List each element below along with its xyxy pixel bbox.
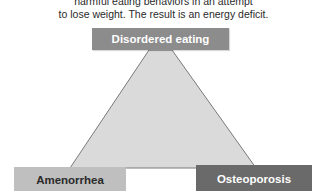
osteoporosis-box: Osteoporosis <box>196 165 312 191</box>
amenorrhea-label: Amenorrhea <box>36 174 104 186</box>
amenorrhea-box: Amenorrhea <box>14 167 126 191</box>
disordered-eating-box: Disordered eating <box>92 28 229 50</box>
osteoporosis-label: Osteoporosis <box>217 173 291 185</box>
disordered-eating-label: Disordered eating <box>112 33 210 45</box>
